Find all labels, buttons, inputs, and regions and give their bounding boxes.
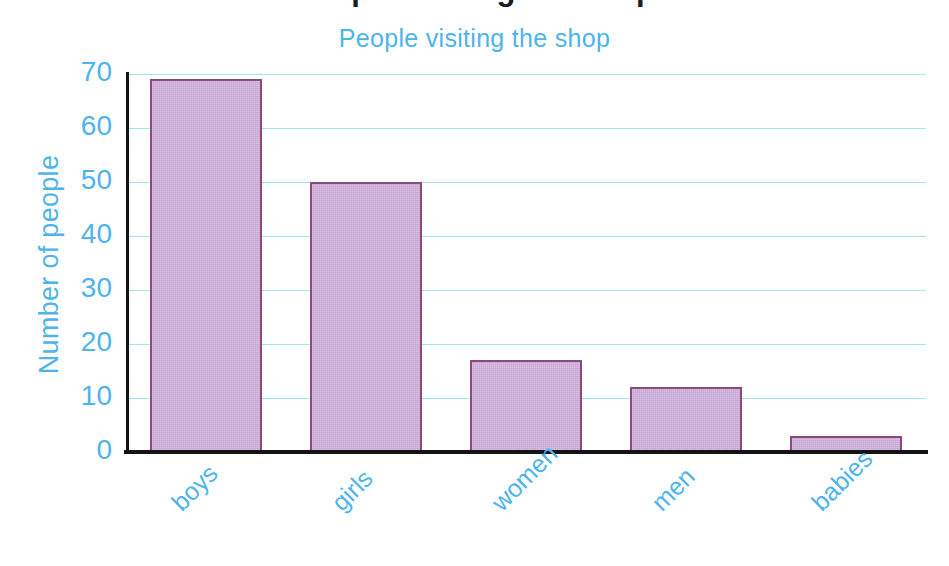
- x-axis-category-label: men: [646, 462, 701, 517]
- bar: [470, 360, 582, 452]
- bar: [150, 79, 262, 452]
- gridline: [126, 74, 926, 75]
- y-axis-tick-label: 0: [52, 434, 112, 466]
- y-axis-tick-label: 30: [52, 272, 112, 304]
- y-axis-tick-label: 70: [52, 56, 112, 88]
- y-axis-tick-label: 20: [52, 326, 112, 358]
- y-axis-tick-label: 40: [52, 218, 112, 250]
- bar-chart-figure: People visiting the shop People visiting…: [0, 0, 949, 566]
- x-axis-line: [124, 450, 928, 454]
- bar: [630, 387, 742, 452]
- x-axis-category-label: girls: [326, 464, 379, 517]
- clipped-page-heading: People visiting the shop: [0, 0, 949, 10]
- plot-area: [126, 74, 926, 452]
- chart-title: People visiting the shop: [0, 24, 949, 53]
- x-axis-category-label: boys: [166, 459, 224, 517]
- y-axis-tick-label: 60: [52, 110, 112, 142]
- y-axis-line: [126, 72, 129, 454]
- bar: [310, 182, 422, 452]
- y-axis-tick-label: 10: [52, 380, 112, 412]
- x-axis-category-label: babies: [806, 444, 879, 517]
- y-axis-tick-label: 50: [52, 164, 112, 196]
- y-axis-title: Number of people: [34, 115, 65, 415]
